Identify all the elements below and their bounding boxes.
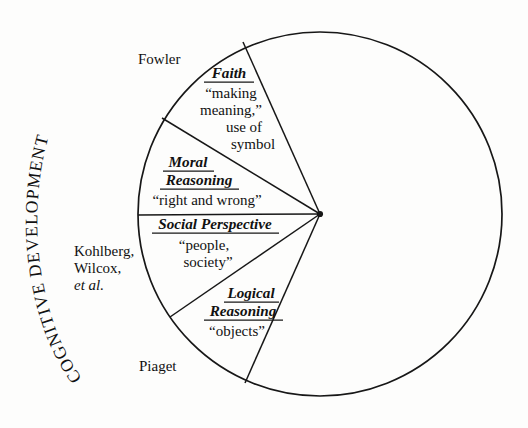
theorist-label-wilcox: Wilcox,: [74, 260, 121, 276]
moral-title-line-2: Reasoning: [165, 171, 233, 188]
faith-line-2: meaning,”: [200, 102, 262, 118]
faith-line-3: use of: [226, 119, 262, 135]
cognitive-development-diagram: COGNITIVE DEVELOPMENT Faith “making mean…: [0, 0, 528, 428]
faith-line-1: “making: [205, 85, 257, 101]
moral-title-line-1: Moral: [168, 153, 209, 170]
figure-canvas: COGNITIVE DEVELOPMENT Faith “making mean…: [0, 0, 528, 428]
theorist-label-etal: et al.: [74, 277, 104, 293]
hub-point: [317, 211, 323, 217]
logical-title-line-2: Reasoning: [209, 302, 277, 319]
logical-title-line-1: Logical: [226, 284, 275, 301]
theorist-label-kohlberg: Kohlberg,: [74, 243, 134, 259]
theorist-label-fowler: Fowler: [138, 51, 181, 67]
moral-line-1: “right and wrong”: [152, 192, 261, 208]
social-title: Social Perspective: [158, 215, 272, 232]
social-line-2: society”: [183, 254, 232, 270]
logical-line-1: “objects”: [209, 323, 265, 339]
faith-title: Faith: [211, 64, 247, 81]
faith-line-4: symbol: [231, 136, 275, 152]
social-line-1: “people,: [179, 237, 229, 253]
theorist-label-piaget: Piaget: [139, 358, 177, 374]
